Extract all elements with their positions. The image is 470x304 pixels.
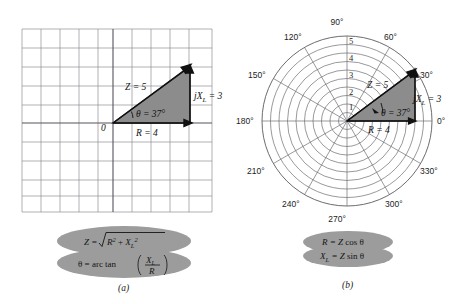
angle-label-210: 210° bbox=[247, 166, 265, 176]
radial-tick-3: 3 bbox=[349, 70, 353, 80]
radial-tick-5: 5 bbox=[349, 36, 353, 46]
angle-label-240: 240° bbox=[282, 199, 300, 209]
formula-a1-x-sub: L bbox=[130, 242, 135, 249]
angle-label-330: 330° bbox=[420, 166, 438, 176]
formula-a2-lead: θ = arc tan bbox=[78, 259, 117, 269]
angle-label-30: 30° bbox=[420, 70, 433, 80]
figure-container: 0 R = 4 Z = 5 jXL = 3 θ = 37° Z = R2 + X… bbox=[0, 0, 470, 304]
angle-label-150: 150° bbox=[248, 70, 266, 80]
svg-text:Z =: Z = bbox=[84, 237, 97, 247]
radial-tick-2: 2 bbox=[349, 87, 353, 97]
z-label-b: Z = 5 bbox=[367, 80, 388, 90]
angle-label-90: 90° bbox=[331, 17, 344, 27]
angle-label-180: 180° bbox=[236, 116, 254, 126]
radial-tick-1: 1 bbox=[349, 102, 353, 112]
formula-a1-plus: + bbox=[116, 237, 126, 247]
formula-a2-den: R bbox=[148, 266, 155, 276]
r-label-b: R = 4 bbox=[367, 125, 390, 135]
angle-label-a: θ = 37° bbox=[136, 109, 165, 119]
formula-b1-fn: cos θ bbox=[343, 237, 364, 247]
formula-a1-lead: Z = bbox=[84, 237, 97, 247]
formula-b-line1: R = Z cos θ bbox=[321, 237, 364, 247]
angle-label-b: θ = 37° bbox=[381, 108, 410, 118]
angle-label-300: 300° bbox=[385, 199, 403, 209]
caption-a: (a) bbox=[118, 283, 129, 294]
origin-label-a: 0 bbox=[101, 123, 106, 133]
angle-label-0: 0° bbox=[437, 116, 445, 126]
angle-label-270: 270° bbox=[328, 214, 346, 224]
formula-b2-fn: sin θ bbox=[345, 251, 364, 261]
caption-b: (b) bbox=[342, 280, 353, 291]
r-label-a: R = 4 bbox=[135, 128, 158, 138]
formula-b1-main: R = Z bbox=[321, 237, 344, 247]
xl-label-a-tail: = 3 bbox=[206, 91, 222, 101]
formula-b2-rest: = Z bbox=[329, 251, 346, 261]
angle-label-60: 60° bbox=[384, 32, 397, 42]
svg-text:R2 + XL2: R2 + XL2 bbox=[106, 236, 138, 249]
angle-label-120: 120° bbox=[284, 32, 302, 42]
xl-label-b-tail: = 3 bbox=[425, 94, 441, 104]
z-label-a: Z = 5 bbox=[125, 82, 146, 92]
